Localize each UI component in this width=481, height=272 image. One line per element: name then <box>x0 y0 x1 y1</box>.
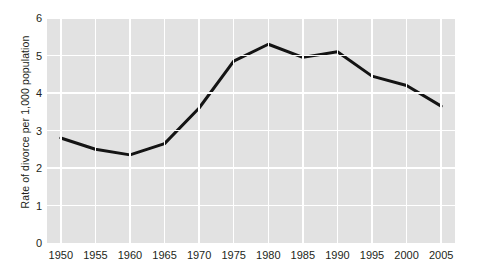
y-tick-label: 0 <box>28 238 42 249</box>
y-axis-tick-labels: 6 5 4 3 2 1 0 <box>28 0 42 272</box>
gridline-vertical <box>198 18 200 243</box>
gridline-vertical <box>371 18 373 243</box>
y-tick-label: 6 <box>28 13 42 24</box>
gridline-vertical <box>268 18 270 243</box>
y-tick-label: 1 <box>28 200 42 211</box>
gridline-vertical <box>406 18 408 243</box>
gridline-vertical <box>60 18 62 243</box>
x-tick-label: 2005 <box>421 248 461 262</box>
gridline-vertical <box>440 18 442 243</box>
x-axis-tick-labels: 1950195519601965197019751980198519901995… <box>0 248 481 264</box>
gridline-horizontal <box>47 205 455 207</box>
gridline-vertical <box>95 18 97 243</box>
y-tick-label: 2 <box>28 163 42 174</box>
gridline-horizontal <box>47 130 455 132</box>
gridline-horizontal <box>47 55 455 57</box>
y-tick-label: 5 <box>28 50 42 61</box>
gridline-vertical <box>337 18 339 243</box>
gridline-vertical <box>164 18 166 243</box>
plot-area <box>47 18 455 243</box>
gridline-horizontal <box>47 167 455 169</box>
gridline-horizontal <box>47 92 455 94</box>
y-tick-label: 4 <box>28 88 42 99</box>
gridline-horizontal <box>47 17 455 19</box>
gridline-vertical <box>233 18 235 243</box>
gridline-vertical <box>302 18 304 243</box>
divorce-rate-line-chart: Rate of divorce per 1,000 population 6 5… <box>0 0 481 272</box>
gridline-vertical <box>129 18 131 243</box>
y-tick-label: 3 <box>28 125 42 136</box>
